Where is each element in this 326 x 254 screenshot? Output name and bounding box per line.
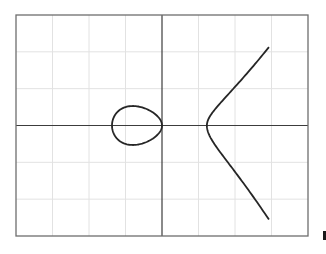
elliptic-curve-plot [0, 0, 326, 254]
curve-unbounded-branch [207, 47, 269, 220]
